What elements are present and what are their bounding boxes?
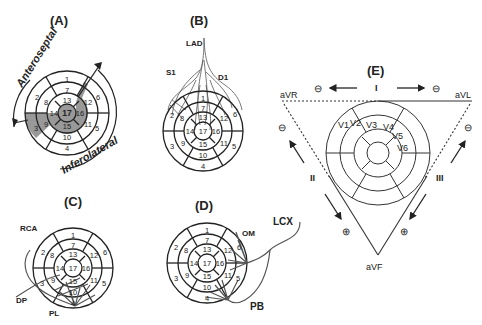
label-avr: aVR: [280, 90, 298, 100]
panel-c-title: (C): [64, 194, 82, 209]
svg-text:15: 15: [63, 122, 71, 131]
panel-a-title: (A): [50, 13, 68, 28]
svg-text:10: 10: [199, 151, 207, 160]
svg-text:1: 1: [65, 75, 69, 84]
svg-text:11: 11: [220, 139, 228, 148]
svg-text:2: 2: [174, 243, 178, 252]
svg-text:11: 11: [84, 120, 92, 129]
label-d1: D1: [218, 73, 229, 82]
panel-d-title: (D): [195, 198, 213, 213]
label-avf: aVF: [366, 262, 383, 272]
svg-text:14: 14: [56, 264, 64, 273]
label-rca: RCA: [20, 224, 38, 233]
svg-text:1: 1: [71, 231, 75, 240]
svg-text:13: 13: [203, 245, 211, 254]
panel-c: (C) RCA DP PL 1 2 3: [16, 194, 113, 318]
label-lead-i: I: [375, 83, 378, 93]
svg-text:10: 10: [203, 283, 211, 292]
svg-text:13: 13: [63, 96, 71, 105]
svg-text:9: 9: [44, 120, 48, 129]
svg-text:13: 13: [199, 113, 207, 122]
svg-text:2: 2: [41, 248, 45, 257]
panel-e: (E) aVR aVL a: [278, 63, 472, 272]
svg-text:9: 9: [51, 276, 55, 285]
label-v3: V3: [366, 120, 377, 130]
svg-text:1: 1: [201, 94, 205, 103]
svg-text:2: 2: [35, 93, 39, 102]
negative-symbol: ⊖: [314, 83, 322, 94]
svg-text:9: 9: [185, 271, 189, 280]
svg-text:13: 13: [69, 250, 77, 259]
label-v1: V1: [338, 120, 349, 130]
label-v6: V6: [397, 143, 408, 153]
svg-text:16: 16: [76, 109, 84, 118]
label-pl: PL: [49, 309, 59, 318]
label-anteroseptal: Anteroseptal: [13, 25, 60, 90]
positive-symbol: ⊖: [432, 83, 440, 94]
negative-symbol: ⊖: [464, 122, 472, 133]
label-dp: DP: [16, 296, 28, 305]
svg-text:4: 4: [65, 144, 69, 153]
label-avl: aVL: [455, 90, 471, 100]
svg-text:6: 6: [237, 243, 241, 252]
svg-text:17: 17: [69, 264, 77, 273]
label-lead-ii: II: [310, 173, 315, 183]
positive-symbol: ⊕: [400, 226, 408, 237]
label-lead-iii: III: [436, 173, 444, 183]
svg-text:12: 12: [224, 246, 232, 255]
svg-text:8: 8: [180, 114, 184, 123]
svg-text:17: 17: [203, 259, 211, 268]
svg-text:11: 11: [90, 276, 98, 285]
svg-text:5: 5: [236, 274, 240, 283]
svg-text:9: 9: [181, 139, 185, 148]
panel-a: (A) Anteroseptal: [12, 13, 120, 176]
svg-text:3: 3: [174, 274, 178, 283]
svg-text:10: 10: [69, 288, 77, 297]
svg-text:4: 4: [201, 162, 205, 171]
label-lcx: LCX: [273, 216, 293, 227]
label-v5: V5: [392, 131, 403, 141]
svg-text:6: 6: [233, 110, 237, 119]
svg-text:7: 7: [71, 241, 75, 250]
positive-symbol: ⊕: [342, 226, 350, 237]
panel-e-title: (E): [367, 63, 384, 78]
svg-text:6: 6: [103, 248, 107, 257]
svg-text:1: 1: [205, 226, 209, 235]
svg-text:5: 5: [232, 142, 236, 151]
svg-text:3: 3: [40, 279, 44, 288]
svg-text:11: 11: [224, 271, 232, 280]
svg-text:10: 10: [63, 133, 71, 142]
svg-text:7: 7: [65, 86, 69, 95]
svg-text:14: 14: [50, 109, 58, 118]
panel-b: (B): [163, 13, 243, 171]
svg-text:16: 16: [212, 127, 220, 136]
svg-text:16: 16: [216, 259, 224, 268]
svg-text:4: 4: [205, 294, 209, 303]
svg-text:8: 8: [184, 246, 188, 255]
svg-text:5: 5: [95, 124, 99, 133]
svg-text:7: 7: [205, 236, 209, 245]
label-om: OM: [242, 229, 255, 238]
svg-text:12: 12: [84, 98, 92, 107]
svg-text:7: 7: [201, 104, 205, 113]
svg-text:15: 15: [203, 272, 211, 281]
panel-b-title: (B): [190, 13, 208, 28]
svg-text:3: 3: [34, 124, 38, 133]
svg-text:15: 15: [199, 140, 207, 149]
svg-text:14: 14: [190, 259, 198, 268]
panel-d: (D) LCX OM PB 1 2 3: [167, 198, 300, 312]
negative-symbol: ⊖: [278, 122, 286, 133]
label-pb: PB: [250, 301, 264, 312]
svg-text:8: 8: [50, 251, 54, 260]
svg-text:5: 5: [102, 279, 106, 288]
svg-text:14: 14: [186, 127, 194, 136]
svg-text:12: 12: [220, 114, 228, 123]
svg-text:17: 17: [62, 108, 72, 118]
svg-text:16: 16: [82, 264, 90, 273]
svg-text:6: 6: [96, 93, 100, 102]
svg-text:12: 12: [90, 251, 98, 260]
svg-text:4: 4: [71, 299, 75, 308]
svg-text:3: 3: [170, 142, 174, 151]
label-s1: S1: [166, 68, 176, 77]
svg-text:17: 17: [199, 127, 207, 136]
